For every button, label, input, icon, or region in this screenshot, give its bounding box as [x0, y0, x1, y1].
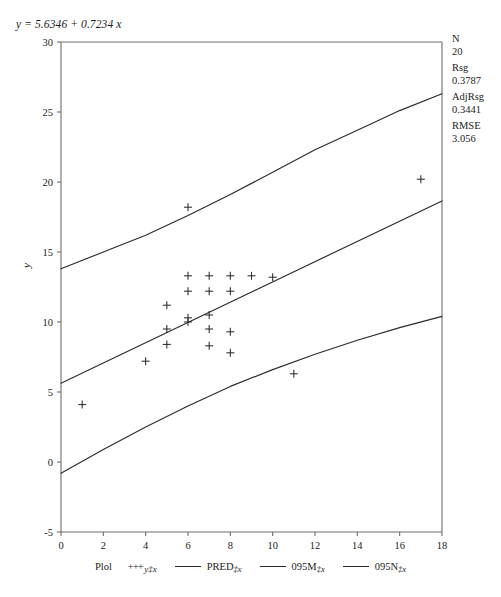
svg-text:12: 12 — [310, 540, 321, 551]
legend-item-observed-sub: y‡x — [144, 564, 157, 574]
data-point-plus-icon — [184, 272, 192, 280]
tick-labels-group: -5051015202530024681012141618 — [43, 37, 448, 551]
data-point-plus-icon — [248, 272, 256, 280]
scatter-plot-svg: -5051015202530024681012141618 — [0, 0, 501, 597]
data-point-plus-icon — [78, 401, 86, 409]
data-point-plus-icon — [417, 175, 425, 183]
series-line-095n — [61, 316, 442, 473]
line-swatch-icon — [175, 566, 201, 567]
data-point-plus-icon — [226, 287, 234, 295]
legend-item-observed[interactable]: +++ y‡x — [128, 561, 157, 572]
svg-text:14: 14 — [352, 540, 363, 551]
svg-text:18: 18 — [437, 540, 448, 551]
data-point-plus-icon — [163, 301, 171, 309]
svg-text:25: 25 — [43, 107, 54, 118]
svg-text:6: 6 — [185, 540, 190, 551]
svg-text:2: 2 — [101, 540, 106, 551]
data-point-plus-icon — [226, 272, 234, 280]
plot-area: -5051015202530024681012141618 — [0, 0, 501, 597]
series-line-pred — [61, 201, 442, 383]
legend-item-095n-sub: ‡x — [398, 564, 406, 574]
data-point-plus-icon — [226, 349, 234, 357]
svg-text:-5: -5 — [44, 527, 53, 538]
axes-group — [57, 42, 442, 536]
svg-text:4: 4 — [143, 540, 149, 551]
confidence-bands-group — [61, 94, 442, 473]
data-point-plus-icon — [184, 318, 192, 326]
regression-line-group — [61, 201, 442, 383]
series-line-095m — [61, 94, 442, 269]
data-point-plus-icon — [163, 340, 171, 348]
legend-item-095m-sub: ‡x — [317, 564, 325, 574]
chart-page: y = 5.6346 + 0.7234 x N 20 Rsg 0.3787 Ad… — [0, 0, 501, 597]
data-point-plus-icon — [142, 357, 150, 365]
data-point-plus-icon — [184, 203, 192, 211]
line-swatch-icon — [343, 566, 369, 567]
svg-text:30: 30 — [43, 37, 54, 48]
svg-text:8: 8 — [228, 540, 233, 551]
data-point-plus-icon — [205, 287, 213, 295]
svg-text:10: 10 — [267, 540, 278, 551]
legend-item-pred[interactable]: PRED ‡x — [175, 561, 242, 572]
legend-item-095n-label: 095N — [375, 561, 398, 572]
svg-text:15: 15 — [43, 247, 54, 258]
legend-item-095m[interactable]: 095M ‡x — [260, 561, 325, 572]
data-point-plus-icon — [205, 272, 213, 280]
data-point-plus-icon — [184, 287, 192, 295]
data-point-plus-icon — [290, 370, 298, 378]
svg-text:10: 10 — [43, 317, 54, 328]
data-point-plus-icon — [205, 311, 213, 319]
svg-text:20: 20 — [43, 177, 54, 188]
line-swatch-icon — [260, 566, 286, 567]
data-point-plus-icon — [226, 328, 234, 336]
data-point-plus-icon — [205, 342, 213, 350]
svg-text:0: 0 — [48, 457, 53, 468]
plus-marker-icon: +++ — [128, 561, 143, 572]
legend-item-pred-label: PRED — [207, 561, 234, 572]
legend-item-095n[interactable]: 095N ‡x — [343, 561, 406, 572]
svg-text:16: 16 — [394, 540, 405, 551]
svg-text:0: 0 — [58, 540, 63, 551]
data-point-plus-icon — [205, 325, 213, 333]
legend-item-095m-label: 095M — [292, 561, 317, 572]
svg-text:5: 5 — [48, 387, 53, 398]
legend-item-pred-sub: ‡x — [234, 564, 242, 574]
legend-title: Plol — [95, 561, 112, 572]
legend: Plol +++ y‡x PRED ‡x 095M ‡x 095N ‡x — [0, 561, 501, 572]
